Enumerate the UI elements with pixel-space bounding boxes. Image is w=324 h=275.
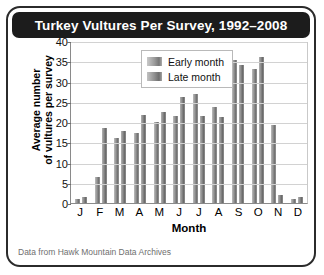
bar [193,94,198,203]
x-axis-tick-label: D [292,206,304,218]
x-axis-tick-label: S [233,206,245,218]
x-axis-tick-label: A [133,206,145,218]
gridline [71,42,307,43]
bar [278,195,283,203]
y-axis-tickmark [67,204,71,205]
bar [219,117,224,203]
bar [114,138,119,203]
gridline [71,103,307,104]
y-axis-tickmark [67,123,71,124]
bar [161,112,166,203]
y-axis-ticks: 0510152025303540 [46,42,68,204]
gridline [71,123,307,124]
y-axis-tickmark [67,62,71,63]
legend-item-early: Early month [147,54,224,69]
y-axis-tickmark [67,83,71,84]
x-axis-tick-label: J [193,206,205,218]
x-axis-title: Month [70,222,308,234]
bar [173,116,178,203]
x-axis-tick-label: A [213,206,225,218]
legend-swatch-late-icon [147,72,162,81]
page-title: Turkey Vultures Per Survey, 1992–2008 [35,18,288,33]
bar [154,122,159,203]
chart-source-note: Data from Hawk Mountain Data Archives [18,247,171,257]
plot-grid: Early month Late month [70,42,308,204]
legend-item-late: Late month [147,69,224,84]
bar [259,57,264,203]
y-axis-tickmark [67,103,71,104]
y-axis-tickmark [67,42,71,43]
bar [102,128,107,203]
legend-label-early: Early month [168,56,224,68]
x-axis-tick-label: J [173,206,185,218]
bar [212,107,217,203]
x-axis-tick-label: M [114,206,126,218]
chart-card: Turkey Vultures Per Survey, 1992–2008 Av… [6,6,316,267]
y-axis-tickmark [67,143,71,144]
y-axis-tickmark [67,164,71,165]
x-axis-tick-label: O [252,206,264,218]
gridline [71,143,307,144]
gridline [71,184,307,185]
bar [82,197,87,203]
bar [75,199,80,203]
bar [141,115,146,203]
plot-area: Average number of vultures per survey 05… [12,42,308,242]
bar [291,199,296,203]
x-axis-tick-label: M [153,206,165,218]
x-axis-ticks: JFMAMJJASOND [70,206,308,218]
bar [239,65,244,203]
x-axis-tick-label: J [74,206,86,218]
bar [180,97,185,203]
bar [200,116,205,203]
gridline [71,164,307,165]
bar [298,197,303,203]
x-axis-tick-label: F [94,206,106,218]
y-axis-tickmark [67,184,71,185]
y-axis-title-line1: Average number [30,50,42,170]
bar [95,177,100,203]
legend-label-late: Late month [168,71,221,83]
x-axis-tick-label: N [272,206,284,218]
chart-legend: Early month Late month [141,50,233,88]
legend-swatch-early-icon [147,57,162,66]
chart-title-bar: Turkey Vultures Per Survey, 1992–2008 [12,12,310,38]
bar [121,131,126,203]
